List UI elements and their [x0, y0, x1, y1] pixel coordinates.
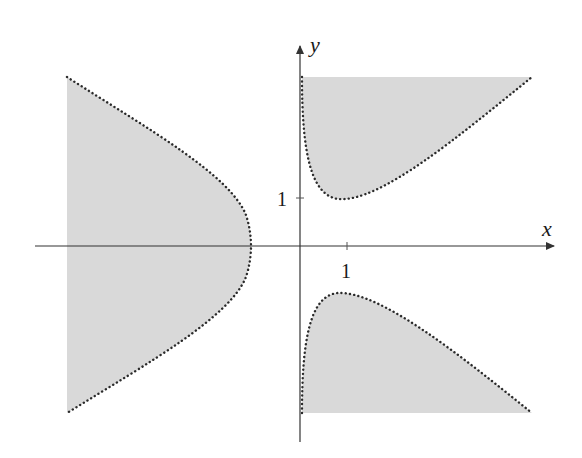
upper-right-region	[302, 77, 532, 199]
y-axis-label: y	[308, 32, 320, 57]
x-tick-label: 1	[341, 260, 351, 282]
lower-right-region	[302, 293, 532, 413]
left-region	[67, 77, 251, 413]
x-axis-label: x	[541, 216, 552, 241]
region-plot: 1 1 x y	[0, 0, 582, 458]
y-tick-label: 1	[277, 188, 287, 210]
